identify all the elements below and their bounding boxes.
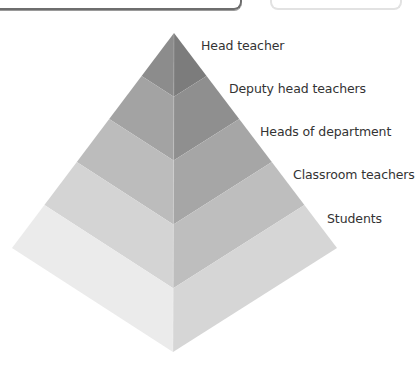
hierarchy-pyramid — [0, 0, 419, 382]
label-heads-of-department: Heads of department — [260, 124, 391, 139]
label-classroom-teachers: Classroom teachers — [293, 167, 415, 182]
label-head-teacher: Head teacher — [201, 38, 284, 53]
label-students: Students — [327, 211, 382, 226]
label-deputy-head-teachers: Deputy head teachers — [229, 81, 366, 96]
